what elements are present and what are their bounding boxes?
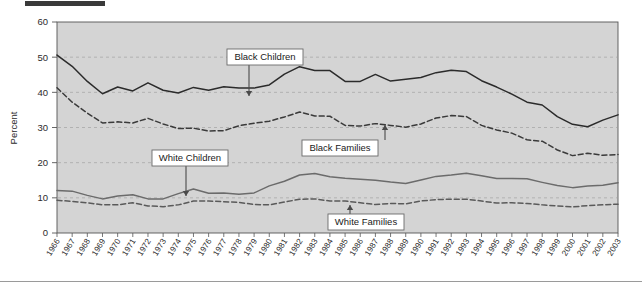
svg-text:1991: 1991 (424, 237, 442, 258)
svg-text:1988: 1988 (378, 237, 396, 258)
callout-label: White Children (159, 152, 221, 163)
y-axis-title: Percent (8, 111, 19, 144)
svg-text:1999: 1999 (545, 237, 563, 258)
callout-label: White Families (335, 216, 398, 227)
svg-text:60: 60 (37, 16, 48, 27)
svg-text:1977: 1977 (211, 237, 229, 258)
svg-text:1985: 1985 (333, 237, 351, 258)
svg-text:1980: 1980 (257, 237, 275, 258)
svg-text:1969: 1969 (90, 237, 108, 258)
svg-text:1971: 1971 (120, 237, 138, 258)
header-rule (25, 1, 105, 6)
footer-rule (0, 281, 642, 282)
svg-text:1993: 1993 (454, 237, 472, 258)
svg-text:1992: 1992 (439, 237, 457, 258)
svg-text:1995: 1995 (484, 237, 502, 258)
svg-text:0: 0 (43, 227, 48, 238)
poverty-rate-line-chart: 0102030405060 19661967196819691970197119… (0, 0, 642, 287)
svg-text:1975: 1975 (181, 237, 199, 258)
svg-text:1982: 1982 (287, 237, 305, 258)
svg-text:40: 40 (37, 87, 48, 98)
svg-text:2001: 2001 (575, 237, 593, 258)
svg-text:1970: 1970 (105, 237, 123, 258)
svg-text:1981: 1981 (272, 237, 290, 258)
svg-text:1968: 1968 (75, 237, 93, 258)
svg-text:1972: 1972 (136, 237, 154, 258)
svg-text:1984: 1984 (318, 237, 336, 258)
svg-text:1974: 1974 (166, 237, 184, 258)
svg-text:1997: 1997 (515, 237, 533, 258)
y-axis: 0102030405060 (37, 16, 57, 238)
x-axis: 1966196719681969197019711972197319741975… (45, 233, 624, 258)
svg-text:2002: 2002 (590, 237, 608, 258)
svg-text:1983: 1983 (302, 237, 320, 258)
svg-text:1990: 1990 (409, 237, 427, 258)
svg-text:1987: 1987 (363, 237, 381, 258)
svg-text:30: 30 (37, 122, 48, 133)
svg-text:50: 50 (37, 52, 48, 63)
svg-text:1979: 1979 (242, 237, 260, 258)
svg-text:1978: 1978 (227, 237, 245, 258)
svg-text:1966: 1966 (45, 237, 63, 258)
svg-text:1976: 1976 (196, 237, 214, 258)
svg-text:2003: 2003 (606, 237, 624, 258)
callout-label: Black Children (234, 51, 295, 62)
svg-text:1973: 1973 (151, 237, 169, 258)
svg-text:10: 10 (37, 192, 48, 203)
chart-figure: 0102030405060 19661967196819691970197119… (0, 0, 642, 287)
svg-text:20: 20 (37, 157, 48, 168)
svg-text:1996: 1996 (499, 237, 517, 258)
svg-text:1994: 1994 (469, 237, 487, 258)
svg-text:1998: 1998 (530, 237, 548, 258)
callout-label: Black Families (309, 142, 370, 153)
svg-text:2000: 2000 (560, 237, 578, 258)
svg-text:1989: 1989 (393, 237, 411, 258)
svg-text:1967: 1967 (60, 237, 78, 258)
svg-text:1986: 1986 (348, 237, 366, 258)
